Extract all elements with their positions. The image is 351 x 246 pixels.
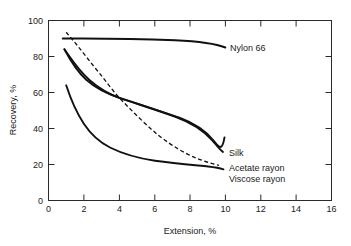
x-tick-label-3: 6: [152, 204, 157, 214]
curve-silk: [64, 49, 224, 147]
y-tick-label-3: 60: [33, 88, 43, 98]
y-tick-label-1: 20: [33, 160, 43, 170]
x-axis-title: Extension, %: [164, 226, 217, 236]
curve-acetate-rayon: [66, 32, 219, 165]
x-axis-ticks-top: [84, 21, 296, 27]
x-tick-label-0: 0: [46, 204, 51, 214]
series-label-silk: Silk: [229, 148, 244, 158]
series-label-acetate-rayon: Acetate rayon: [229, 163, 285, 173]
x-tick-label-5: 10: [220, 204, 230, 214]
curve-silk-main: [64, 49, 223, 152]
y-tick-label-5: 100: [28, 16, 43, 26]
y-axis-title: Recovery, %: [8, 85, 18, 135]
series-label-viscose-rayon: Viscose rayon: [229, 174, 285, 184]
y-axis-ticks-right: [326, 57, 332, 165]
x-axis-ticks-bottom: [49, 195, 332, 201]
recovery-extension-chart: 0 2 4 6 8 10 12 14 16 0 20 40 60 80 100 …: [0, 0, 351, 246]
x-tick-label-1: 2: [81, 204, 86, 214]
y-tick-label-2: 40: [33, 124, 43, 134]
series-label-nylon-66: Nylon 66: [230, 43, 266, 53]
x-tick-label-7: 14: [291, 204, 301, 214]
y-tick-label-4: 80: [33, 52, 43, 62]
x-tick-label-4: 8: [187, 204, 192, 214]
x-tick-label-6: 12: [256, 204, 266, 214]
curve-nylon-66: [63, 38, 226, 47]
plot-frame: [49, 21, 332, 201]
y-axis-ticks-left: [49, 21, 55, 201]
x-tick-label-8: 16: [326, 204, 336, 214]
x-tick-label-2: 4: [117, 204, 122, 214]
chart-figure: 0 2 4 6 8 10 12 14 16 0 20 40 60 80 100 …: [0, 0, 351, 246]
y-tick-label-0: 0: [38, 196, 43, 206]
